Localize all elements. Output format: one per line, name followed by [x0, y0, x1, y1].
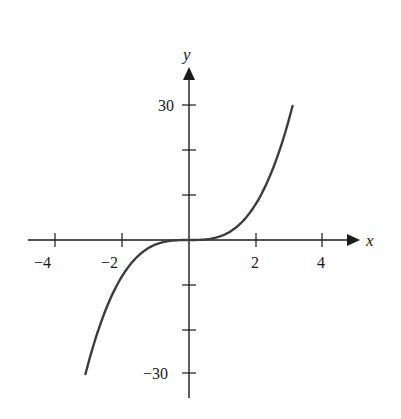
y-tick-label: 30 — [158, 97, 174, 114]
y-axis-label: y — [181, 45, 191, 64]
x-tick-label: −2 — [101, 254, 118, 271]
x-axis-arrow-icon — [347, 234, 360, 246]
y-tick-label: −30 — [143, 365, 168, 382]
cubic-function-plot: x y −4 −2 2 4 30 −30 — [0, 0, 401, 419]
x-tick-label: 4 — [317, 254, 325, 271]
x-axis-label: x — [365, 231, 374, 250]
x-tick-label: −4 — [34, 254, 51, 271]
y-axis-arrow-icon — [183, 67, 195, 80]
x-tick-label: 2 — [251, 254, 259, 271]
